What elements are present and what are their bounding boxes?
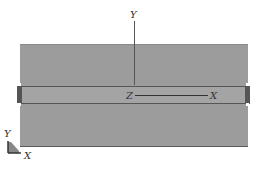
notch	[18, 103, 21, 106]
z-axis-label: Z	[126, 91, 133, 101]
x-axis-line	[135, 95, 208, 96]
y-axis-label: Y	[130, 10, 137, 20]
y-axis-line	[134, 21, 135, 85]
notch	[246, 83, 249, 86]
triad-y-label: Y	[4, 129, 11, 139]
x-axis-label: X	[210, 91, 217, 101]
notch	[246, 103, 249, 106]
notch	[18, 83, 21, 86]
coordinate-triad-icon	[7, 141, 21, 154]
left-end-tab	[17, 86, 22, 103]
right-end-tab	[245, 86, 250, 103]
triad-x-label: X	[24, 151, 31, 161]
